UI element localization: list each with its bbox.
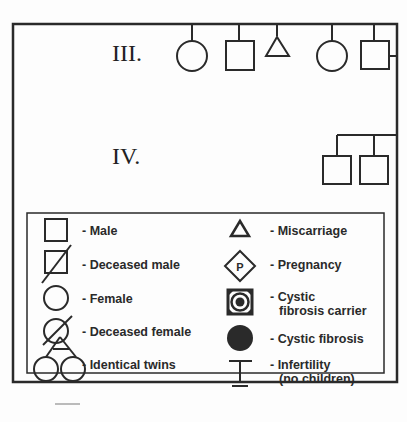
legend-label-infertility-line2: (no children)	[270, 372, 355, 386]
gen4-male-2	[360, 156, 388, 184]
legend-label-cystic-fibrosis: - Cystic fibrosis	[270, 332, 364, 346]
gen3-female-2	[317, 41, 347, 71]
legend-label-infertility-line1: - Infertility	[270, 358, 330, 372]
legend-label-deceased-male: - Deceased male	[82, 258, 180, 272]
gen3-male-2	[361, 41, 389, 69]
gen3-miscarriage	[266, 37, 289, 56]
female-icon	[44, 286, 68, 310]
cystic-fibrosis-icon	[227, 325, 253, 351]
miscarriage-icon	[231, 221, 249, 236]
legend-label-identical-twins: - Identical twins	[82, 358, 176, 372]
legend-label-cf-carrier-line2: fibrosis carrier	[270, 304, 367, 318]
legend-label-male: - Male	[82, 224, 117, 238]
generation-label-iv: IV.	[112, 143, 140, 170]
pregnancy-glyph: P	[236, 261, 243, 273]
scan-artifact	[55, 403, 80, 405]
male-icon	[45, 219, 67, 241]
legend-label-female: - Female	[82, 292, 133, 306]
legend-label-pregnancy: - Pregnancy	[270, 258, 342, 272]
gen3-male-1	[226, 41, 254, 70]
legend-label-cf-carrier: - Cystic fibrosis carrier	[270, 290, 367, 318]
legend-label-cf-carrier-line1: - Cystic	[270, 290, 315, 304]
legend-label-infertility: - Infertility (no children)	[270, 358, 355, 386]
outer-frame	[13, 24, 397, 382]
legend-label-deceased-female: - Deceased female	[82, 325, 191, 339]
generation-label-iii: III.	[112, 40, 142, 67]
identical-twins-icon	[34, 337, 85, 381]
legend-label-miscarriage: - Miscarriage	[270, 224, 347, 238]
gen4-male-1	[323, 156, 351, 184]
gen3-female-1	[177, 41, 207, 71]
